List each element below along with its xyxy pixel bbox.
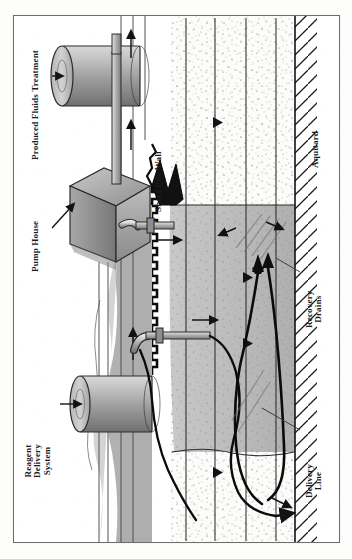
figure-page: Produced Fluids Treatment Pump House Rea… bbox=[0, 0, 352, 559]
label-pump-house: Pump House bbox=[31, 221, 40, 272]
label-aquitard: Aquitard bbox=[311, 131, 320, 168]
label-sheet-pile-wall: Sheet Pile Wall bbox=[154, 151, 163, 212]
pipe-flange bbox=[147, 218, 154, 233]
diagram-artwork bbox=[0, 0, 352, 559]
label-reagent-delivery-system: Reagent Delivery System bbox=[24, 444, 52, 478]
produced-fluids-treatment-tank bbox=[51, 46, 149, 106]
label-produced-fluids-treatment: Produced Fluids Treatment bbox=[31, 50, 40, 160]
treatment-riser-pipe bbox=[112, 52, 121, 184]
subsurface-group bbox=[170, 16, 318, 542]
label-recovery-drains: Recovery Drains bbox=[305, 290, 324, 328]
reagent-delivery-tank bbox=[70, 376, 160, 432]
pipe-flange bbox=[156, 328, 163, 343]
label-delivery-line: Delivery Line bbox=[305, 464, 324, 498]
